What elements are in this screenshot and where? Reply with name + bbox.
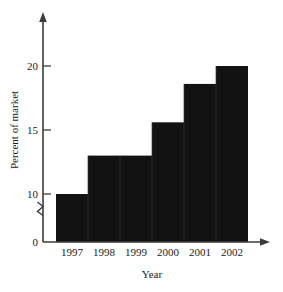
x-axis-title: Year bbox=[142, 268, 163, 280]
y-tick-label: 20 bbox=[27, 60, 39, 72]
bar bbox=[152, 122, 184, 242]
x-tick-label: 1997 bbox=[61, 246, 84, 258]
y-tick-label: 0 bbox=[33, 236, 39, 248]
bar bbox=[120, 156, 152, 242]
x-tick-label: 2000 bbox=[157, 246, 180, 258]
x-tick-labels: 199719981999200020012002 bbox=[61, 246, 243, 258]
y-tick-labels: 2015100 bbox=[27, 60, 39, 248]
x-axis-arrow-icon bbox=[260, 238, 270, 245]
bar-chart-figure: 2015100 199719981999200020012002 Percent… bbox=[0, 0, 283, 292]
bar bbox=[88, 156, 120, 242]
bar bbox=[56, 194, 88, 242]
y-tick-label: 15 bbox=[27, 124, 39, 136]
x-tick-label: 2001 bbox=[189, 246, 211, 258]
bars-group bbox=[56, 66, 248, 242]
chart-canvas: 2015100 199719981999200020012002 Percent… bbox=[0, 0, 283, 292]
x-tick-label: 2002 bbox=[221, 246, 243, 258]
bar bbox=[216, 66, 248, 242]
x-tick-label: 1998 bbox=[93, 246, 116, 258]
y-tick-marks bbox=[43, 66, 51, 194]
y-axis-title: Percent of market bbox=[8, 91, 20, 169]
x-tick-label: 1999 bbox=[125, 246, 148, 258]
axis-break-icon bbox=[38, 202, 44, 216]
bar bbox=[184, 84, 216, 242]
y-tick-label: 10 bbox=[27, 188, 39, 200]
y-axis-arrow-icon bbox=[39, 12, 47, 22]
